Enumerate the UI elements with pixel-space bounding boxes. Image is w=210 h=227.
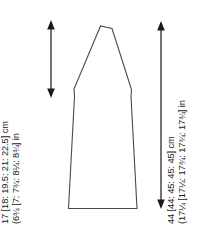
sleeve-length-label: 44 [44: 45: 45: 45] cm (17¼ [17¼: 17¾: 1… <box>166 0 188 227</box>
sleeve-cap-label-in: (6¾ [7: 7¾: 8¼: 8¾] in <box>11 0 22 227</box>
sleeve-length-label-in: (17¼ [17¼: 17¾: 17¾: 17¾] in <box>177 0 188 227</box>
sleeve-outline-path <box>69 26 138 209</box>
sleeve-cap-label: 17 [18: 19.5: 21: 22.5] cm (6¾ [7: 7¾: 8… <box>0 0 22 227</box>
sleeve-cap-label-cm: 17 [18: 19.5: 21: 22.5] cm <box>0 0 11 227</box>
sleeve-length-measure-arrow <box>157 21 165 209</box>
sleeve-cap-measure-arrow <box>47 20 55 98</box>
schematic-page: 17 [18: 19.5: 21: 22.5] cm (6¾ [7: 7¾: 8… <box>0 0 210 227</box>
sleeve-length-label-cm: 44 [44: 45: 45: 45] cm <box>166 0 177 227</box>
